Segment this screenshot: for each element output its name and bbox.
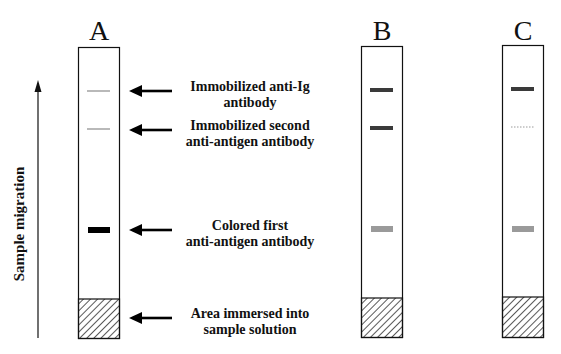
annotation-sample-area-line2: sample solution (204, 322, 297, 337)
strip-b-sample-area (362, 298, 403, 338)
annotation-anti-ig-line1: Immobilized anti-Ig (190, 79, 309, 94)
strip-c-band-colored-antibody (512, 226, 534, 232)
pointer-arrowhead-sample-area (129, 312, 142, 324)
strip-b-band-anti-ig (370, 88, 393, 92)
strip-b-label: B (373, 15, 392, 46)
annotation-second-antibody-line2: anti-antigen antibody (186, 134, 315, 149)
strip-b-band-second-antibody (370, 126, 393, 130)
strip-a: A (79, 15, 120, 339)
migration-axis: Sample migration (11, 80, 42, 338)
migration-label: Sample migration (11, 166, 27, 281)
annotation-colored-antibody-line2: anti-antigen antibody (186, 234, 315, 249)
pointer-arrowhead-anti-ig (129, 85, 142, 97)
strip-c: C (503, 15, 544, 338)
strip-b: B (362, 15, 403, 338)
strip-a-band-colored-antibody (88, 227, 110, 233)
pointer-arrowhead-second-antibody (129, 124, 142, 136)
diagram-canvas: Sample migration A B C (0, 0, 561, 354)
pointer-arrows (129, 85, 172, 324)
strip-c-band-anti-ig (511, 87, 534, 91)
annotation-colored-antibody-line1: Colored first (212, 218, 289, 233)
strip-a-sample-area (79, 299, 120, 339)
annotation-second-antibody-line1: Immobilized second (190, 118, 310, 133)
strip-a-label: A (89, 15, 110, 46)
annotations: Immobilized anti-Ig antibody Immobilized… (186, 79, 315, 337)
pointer-arrowhead-colored-antibody (129, 224, 142, 236)
annotation-sample-area-line1: Area immersed into (191, 306, 310, 321)
migration-arrow-head (35, 80, 42, 92)
annotation-anti-ig-line2: antibody (224, 95, 277, 110)
strip-c-sample-area (503, 297, 544, 338)
strip-c-label: C (514, 15, 533, 46)
strip-b-band-colored-antibody (371, 226, 393, 232)
